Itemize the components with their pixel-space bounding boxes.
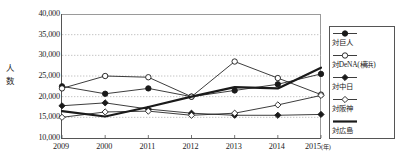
x-axis-tick-label-text: 2012 <box>183 142 199 151</box>
x-axis-tick-label-text: 2011 <box>139 142 155 151</box>
y-axis-tick-label: 25,000 <box>14 72 60 80</box>
legend-label: 対DeNA(横浜) <box>332 60 394 69</box>
legend-item[interactable]: 対阪神 <box>332 95 394 113</box>
legend-point <box>342 74 348 80</box>
y-axis-tick-label: 15,000 <box>14 113 60 121</box>
x-axis-tick-label-text: 2014 <box>269 142 285 151</box>
x-axis-tick-label: 2015(年) <box>305 143 331 151</box>
legend-item[interactable]: 対広島 <box>332 117 394 135</box>
x-axis-tick-marks <box>62 135 321 138</box>
legend-point <box>342 96 348 102</box>
legend: 対巨人対DeNA(横浜)対中日対阪神対広島 <box>329 26 395 139</box>
x-axis-unit-label: (年) <box>321 143 331 150</box>
series-line <box>62 68 321 117</box>
y-axis-tick-label: 35,000 <box>14 31 60 39</box>
data-point <box>146 86 151 91</box>
data-point <box>102 91 107 96</box>
legend-marker-open-diamond-icon <box>332 95 394 104</box>
legend-label: 対巨人 <box>332 38 394 47</box>
series-line <box>62 62 321 97</box>
series-対広島 <box>62 68 321 117</box>
x-axis-tick-label-text: 2000 <box>96 142 112 151</box>
data-series-layer <box>59 59 324 121</box>
x-axis-tick-label: 2013 <box>226 143 242 151</box>
data-point <box>59 86 64 91</box>
legend-point <box>342 53 347 58</box>
data-point <box>318 111 324 117</box>
x-axis-tick-label: 2011 <box>139 143 155 151</box>
legend-marker-filled-circle-icon <box>332 29 394 38</box>
data-point <box>102 109 108 115</box>
data-point <box>275 75 280 80</box>
gridlines <box>62 35 321 118</box>
data-point <box>275 102 281 108</box>
y-axis-tick-label: 10,000 <box>14 134 60 142</box>
chart-svg <box>62 14 321 138</box>
legend-item[interactable]: 対巨人 <box>332 29 394 47</box>
data-point <box>102 100 108 106</box>
x-axis-tick-label: 2009 <box>53 143 69 151</box>
x-axis-tick-label: 2014 <box>269 143 285 151</box>
y-axis-tick-label: 30,000 <box>14 51 60 59</box>
legend-label: 対阪神 <box>332 104 394 113</box>
x-axis-tick-label: 2012 <box>183 143 199 151</box>
series-対DeNA(横浜) <box>59 59 323 100</box>
data-point <box>59 103 65 109</box>
legend-marker-open-circle-icon <box>332 51 394 60</box>
data-point <box>102 73 107 78</box>
legend-label: 対中日 <box>332 82 394 91</box>
x-axis-tick-label-text: 2013 <box>226 142 242 151</box>
x-axis-tick-label-text: 2015 <box>305 142 321 151</box>
legend-item[interactable]: 対中日 <box>332 73 394 91</box>
legend-marker-filled-diamond-icon <box>332 73 394 82</box>
plot-area <box>61 14 321 139</box>
legend-item[interactable]: 対DeNA(横浜) <box>332 51 394 69</box>
data-point <box>232 59 237 64</box>
legend-marker-none-icon <box>332 117 394 126</box>
data-point <box>275 82 280 87</box>
y-axis-tick-label: 20,000 <box>14 93 60 101</box>
chart-container: 人 数 40,00035,00030,00025,00020,00015,000… <box>0 0 398 164</box>
legend-label: 対広島 <box>332 126 394 135</box>
x-axis-tick-label: 2000 <box>96 143 112 151</box>
legend-point <box>342 31 347 36</box>
y-axis-tick-label: 40,000 <box>14 10 60 18</box>
x-axis-tick-label-text: 2009 <box>53 142 69 151</box>
data-point <box>146 75 151 80</box>
data-point <box>318 71 323 76</box>
